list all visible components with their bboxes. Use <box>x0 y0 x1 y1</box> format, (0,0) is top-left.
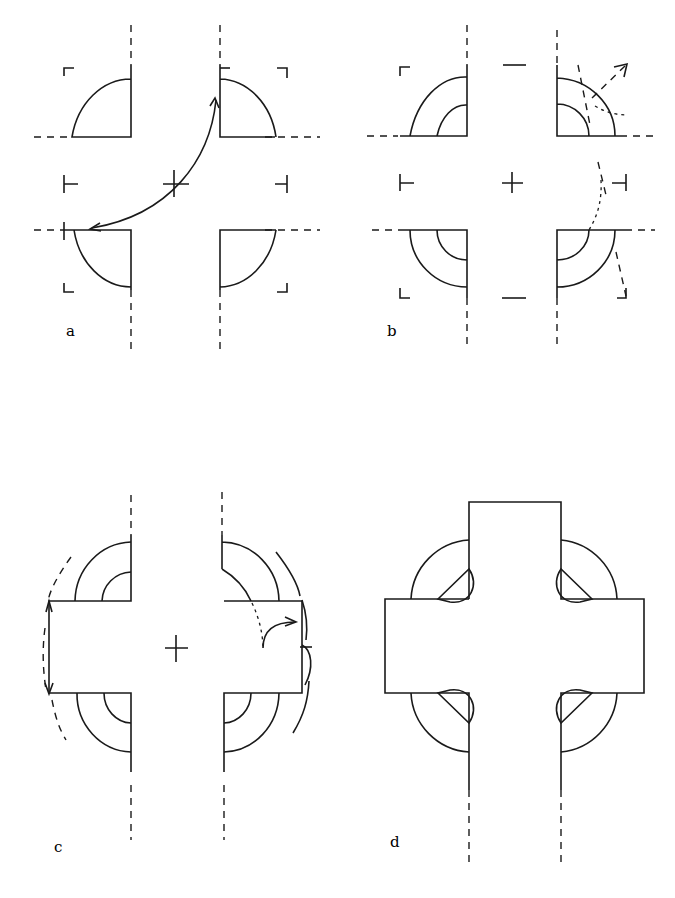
side-mark <box>612 174 626 191</box>
quarter-piece-br <box>220 230 276 290</box>
quarter-piece-bl <box>65 230 131 290</box>
quarter-piece-bl <box>400 230 467 298</box>
rotation-path <box>252 603 263 650</box>
quarter-piece-br <box>557 230 625 298</box>
ring-arcs-br <box>224 693 279 752</box>
quarter-piece-tr <box>557 65 620 136</box>
corner-bracket <box>64 283 74 292</box>
ring-arc-br <box>561 693 617 752</box>
side-mark <box>64 175 78 193</box>
center-cross <box>165 635 188 662</box>
panel-a <box>34 25 320 350</box>
ring-arc-tr <box>561 540 617 599</box>
cross-outline <box>385 502 644 790</box>
rotation-path <box>595 106 628 115</box>
quarter-piece-tl <box>72 65 131 137</box>
rotation-arrow <box>263 622 295 648</box>
panel-b <box>367 25 655 345</box>
rotation-arc <box>48 557 71 601</box>
rotation-arc <box>276 552 300 596</box>
rotation-guide <box>616 252 626 296</box>
panel-d <box>385 502 644 866</box>
center-cross <box>502 172 523 193</box>
horizontal-arm-right <box>224 601 302 772</box>
corner-bracket <box>400 288 410 298</box>
corner-bracket <box>277 68 287 78</box>
quarter-piece-tl <box>400 65 467 136</box>
corner-bracket <box>277 283 287 292</box>
rotation-guide <box>578 65 590 125</box>
panel-label-b: b <box>387 322 397 340</box>
rotation-arrow <box>302 645 311 685</box>
rotation-arc <box>52 700 66 740</box>
ring-arcs-bl <box>77 693 131 752</box>
center-cross <box>163 170 189 197</box>
rotation-arc <box>43 628 46 690</box>
ring-arc-bl <box>411 693 469 752</box>
figure-canvas: a b <box>0 0 675 898</box>
panel-label-d: d <box>390 833 400 851</box>
rotation-guide <box>598 162 606 195</box>
rotation-arrow <box>592 65 626 98</box>
ring-arc-tl <box>411 540 469 599</box>
rotation-path <box>589 180 601 230</box>
panel-c <box>43 492 312 840</box>
rotation-arc <box>293 681 309 733</box>
ring-arcs-tl <box>75 542 131 601</box>
rotation-arrow <box>92 100 216 228</box>
side-mark <box>275 175 287 193</box>
panel-label-a: a <box>66 322 75 340</box>
corner-bracket <box>64 68 74 76</box>
panel-label-c: c <box>54 838 62 856</box>
ring-arcs-tr <box>222 535 279 601</box>
side-mark <box>400 174 414 191</box>
quarter-piece-tr <box>220 65 276 137</box>
corner-bracket <box>400 67 410 76</box>
